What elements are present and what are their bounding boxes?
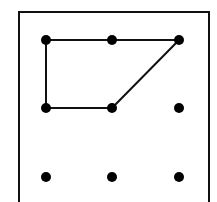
dot-grid-diagram [0,0,217,202]
grid-dot-r0-c0 [41,35,51,45]
grid-dot-r2-c2 [174,172,184,182]
grid-dot-r1-c0 [41,103,51,113]
grid-dot-r1-c2 [174,103,184,113]
grid-dot-r2-c0 [41,172,51,182]
grid-dot-r0-c2 [174,35,184,45]
grid-dot-r2-c1 [107,172,117,182]
grid-dot-r0-c1 [107,35,117,45]
grid-dot-r1-c1 [107,103,117,113]
pattern-path [46,40,179,108]
